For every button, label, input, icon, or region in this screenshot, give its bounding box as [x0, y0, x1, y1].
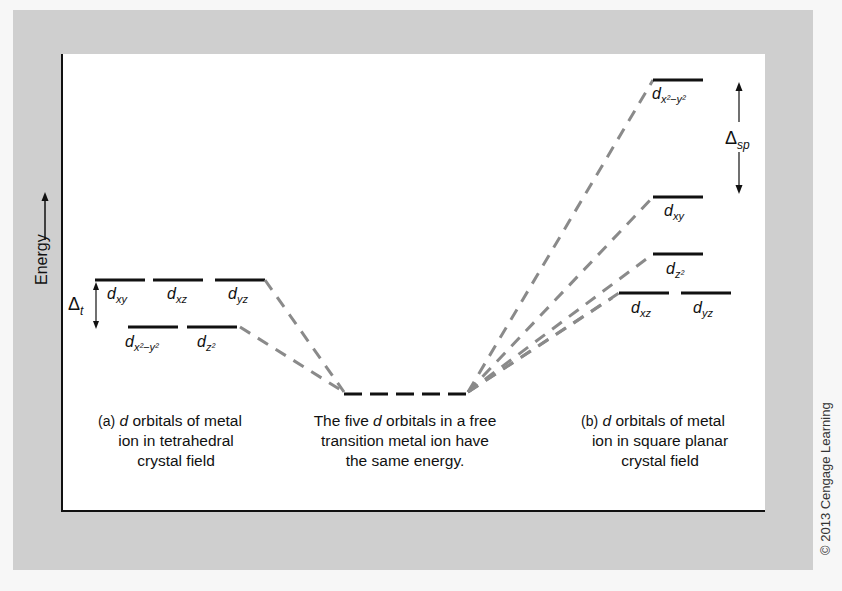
square-planar-connectors — [468, 80, 653, 392]
caption-square-planar: (b) d orbitals of metal ion in square pl… — [553, 411, 753, 471]
label-dx2y2-sp: dx²−y² — [652, 86, 686, 105]
delta-sp-label: Δsp — [725, 128, 750, 152]
label-dyz-tetra: dyz — [228, 286, 248, 305]
tetrahedral-connectors — [240, 280, 344, 392]
energy-arrow-icon — [42, 192, 49, 240]
label-dz2-sp: dz² — [666, 261, 684, 280]
label-dx2y2-tetra: dx²−y² — [125, 334, 159, 353]
energy-axis-label: Energy — [33, 234, 51, 285]
caption-tetrahedral: (a) d orbitals of metal ion in tetrahedr… — [75, 411, 265, 471]
label-dz2-tetra: dz² — [197, 334, 215, 353]
caption-free-ion: The five d orbitals in a free transition… — [285, 411, 525, 471]
delta-t-arrow-icon — [93, 282, 99, 329]
delta-t-label: Δt — [68, 294, 83, 318]
label-dxz-tetra: dxz — [167, 286, 187, 305]
label-dxy-tetra: dxy — [107, 286, 127, 305]
label-dyz-sp: dyz — [693, 300, 713, 319]
label-dxz-sp: dxz — [631, 300, 651, 319]
copyright-notice: © 2013 Cengage Learning — [818, 402, 833, 555]
label-dxy-sp: dxy — [664, 203, 684, 222]
